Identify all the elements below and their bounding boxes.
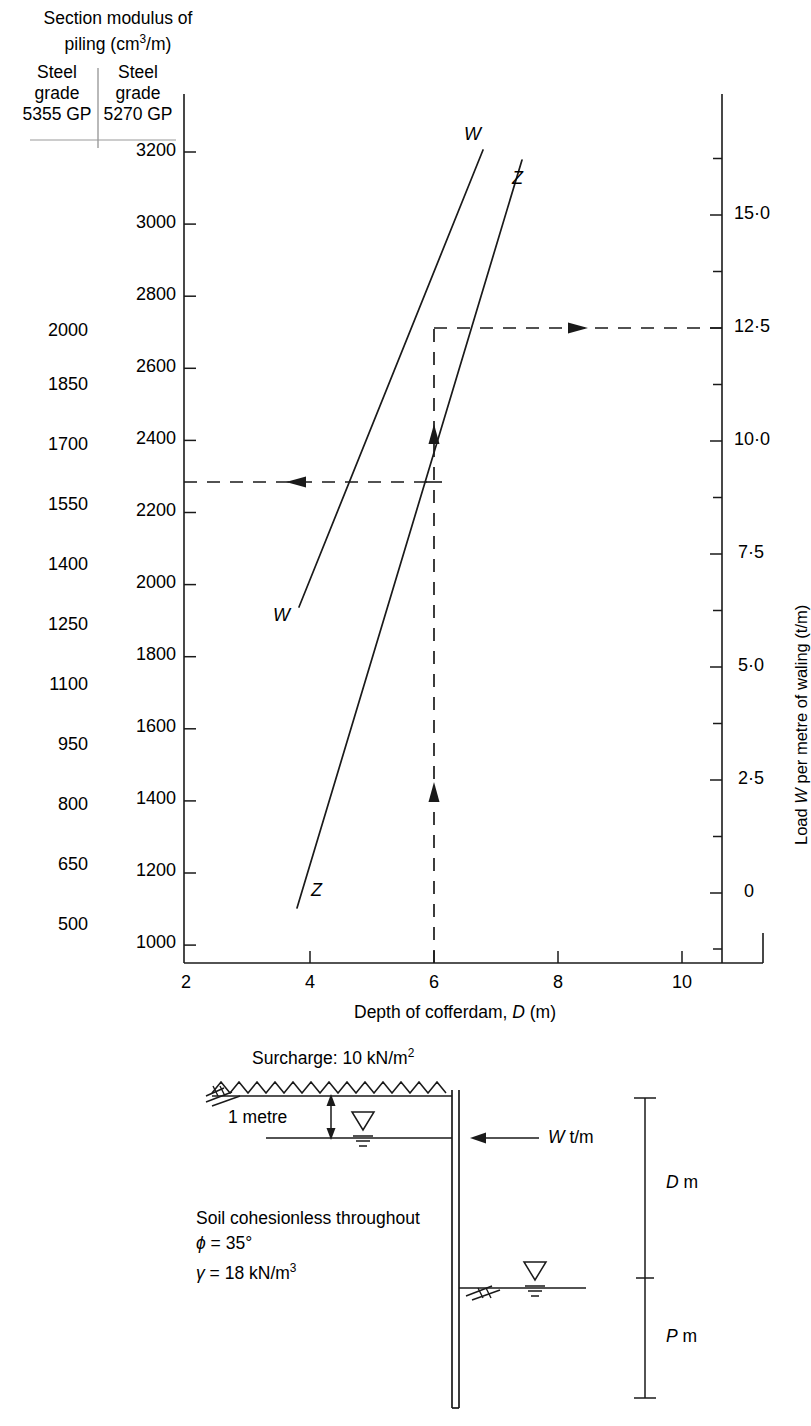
curve-label-Z-lower: Z: [311, 880, 322, 901]
surcharge-zigzag: [212, 1082, 446, 1093]
soil-line-1: Soil cohesionless throughout: [196, 1206, 420, 1231]
axis-title-bottom: Depth of cofferdam, D (m): [354, 1002, 556, 1023]
water-table-symbol-lower: [524, 1262, 546, 1296]
curve-label-W-upper: W: [464, 124, 481, 145]
curve-label-W-lower: W: [273, 605, 290, 626]
load-arrow-label: W t/m: [548, 1127, 594, 1148]
curve-Z: [297, 160, 522, 908]
axis-bottom-ticks: [310, 951, 682, 963]
construction-arrowheads: [286, 323, 588, 803]
construction-lines: [184, 328, 722, 963]
arrow-up-upper: [429, 424, 440, 444]
one-metre-label: 1 metre: [228, 1107, 287, 1128]
axis-title-right: Load W per metre of waling (t/m): [792, 605, 811, 845]
curve-group: [297, 150, 522, 908]
arrow-up-lower: [429, 782, 440, 802]
axis-left-ticks: [184, 152, 196, 945]
soil-line-phi: ϕ = 35°: [196, 1231, 420, 1256]
dimension-line-right: [634, 1098, 656, 1398]
dimension-label-P: P m: [666, 1326, 697, 1347]
water-table-symbol-upper: [352, 1112, 374, 1146]
arrow-right-load: [568, 323, 588, 334]
surcharge-label: Surcharge: 10 kN/m2: [252, 1046, 414, 1069]
curve-label-Z-upper: Z: [512, 168, 523, 189]
load-arrow-head: [470, 1133, 486, 1144]
axis-right-ticks: [710, 159, 722, 950]
soil-line-gamma: γ = 18 kN/m3: [196, 1256, 420, 1286]
arrow-left-modulus: [286, 477, 306, 488]
dimension-label-D: D m: [666, 1172, 698, 1193]
soil-properties: Soil cohesionless throughout ϕ = 35° γ =…: [196, 1206, 420, 1286]
